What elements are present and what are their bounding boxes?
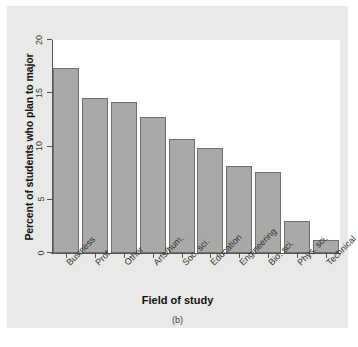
y-axis-tick-label: 10 (34, 141, 43, 151)
x-axis-title: Field of study (7, 294, 348, 306)
y-axis-tick-label: 15 (34, 88, 43, 98)
y-axis-tick: 0 (47, 252, 52, 253)
bar (197, 148, 223, 253)
figure-caption: (b) (7, 315, 348, 325)
bar (82, 98, 108, 253)
y-axis-tick: 5 (47, 199, 52, 200)
y-axis-tick: 15 (47, 92, 52, 93)
y-axis-tick: 20 (47, 39, 52, 40)
bar (140, 117, 166, 253)
bar (53, 68, 79, 253)
y-axis-tick-label: 20 (34, 34, 43, 44)
bar (111, 102, 137, 253)
y-axis-tick: 10 (47, 146, 52, 147)
figure-card: Percent of students who plan to major 05… (7, 6, 348, 328)
plot-frame: 05101520 BusinessProf.OtherArts/hum.Soc.… (52, 40, 340, 253)
y-axis-tick-label: 0 (37, 250, 46, 255)
y-axis-tick-label: 5 (37, 197, 46, 202)
